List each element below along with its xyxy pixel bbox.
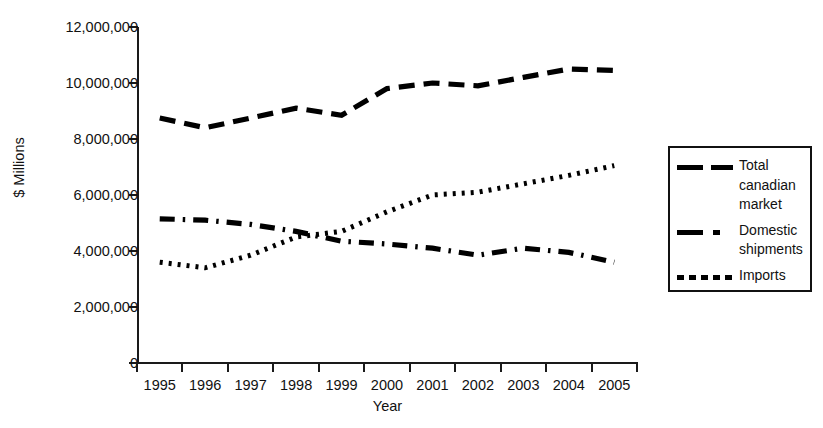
chart-figure: 02,000,0004,000,0006,000,0008,000,00010,… — [0, 0, 823, 428]
legend-key-icon — [677, 162, 733, 174]
x-tick-label: 2000 — [361, 377, 413, 393]
series-line-2 — [160, 219, 615, 262]
y-tick-label: 4,000,000 — [22, 244, 138, 259]
x-tick-label: 1998 — [270, 377, 322, 393]
x-tick-label: 1995 — [134, 377, 186, 393]
x-tick-label: 1997 — [225, 377, 277, 393]
x-tick-label: 1999 — [316, 377, 368, 393]
x-tick-mark — [636, 363, 638, 372]
y-tick-label: 10,000,000 — [22, 76, 138, 91]
series-line-1 — [160, 69, 615, 128]
x-tick-mark — [272, 363, 274, 372]
x-tick-mark — [136, 363, 138, 372]
x-tick-mark — [545, 363, 547, 372]
legend-key-icon — [677, 272, 733, 284]
y-tick-label: 8,000,000 — [22, 132, 138, 147]
x-tick-label: 2002 — [452, 377, 504, 393]
y-tick-label: 12,000,000 — [22, 20, 138, 35]
x-tick-mark — [363, 363, 365, 372]
series-line-3 — [160, 166, 615, 268]
legend-label: Total canadian market — [739, 156, 817, 215]
x-tick-label: 2004 — [543, 377, 595, 393]
x-tick-label: 2005 — [588, 377, 640, 393]
x-tick-label: 2003 — [497, 377, 549, 393]
legend-label: Domestic shipments — [739, 221, 817, 260]
x-tick-label: 1996 — [179, 377, 231, 393]
y-axis-title: $ Millions — [12, 113, 27, 223]
x-tick-mark — [227, 363, 229, 372]
x-axis-line — [137, 362, 638, 364]
x-tick-mark — [454, 363, 456, 372]
x-tick-mark — [409, 363, 411, 372]
x-tick-mark — [500, 363, 502, 372]
legend-key-icon — [677, 227, 733, 239]
x-tick-label: 2001 — [406, 377, 458, 393]
x-axis-title: Year — [137, 398, 638, 414]
x-tick-mark — [318, 363, 320, 372]
chart-legend: Total canadian marketDomestic shipmentsI… — [668, 146, 812, 292]
x-tick-mark — [181, 363, 183, 372]
legend-label: Imports — [739, 266, 817, 286]
y-tick-label: 0 — [22, 356, 138, 371]
y-tick-label: 2,000,000 — [22, 300, 138, 315]
y-tick-label: 6,000,000 — [22, 188, 138, 203]
x-tick-mark — [591, 363, 593, 372]
